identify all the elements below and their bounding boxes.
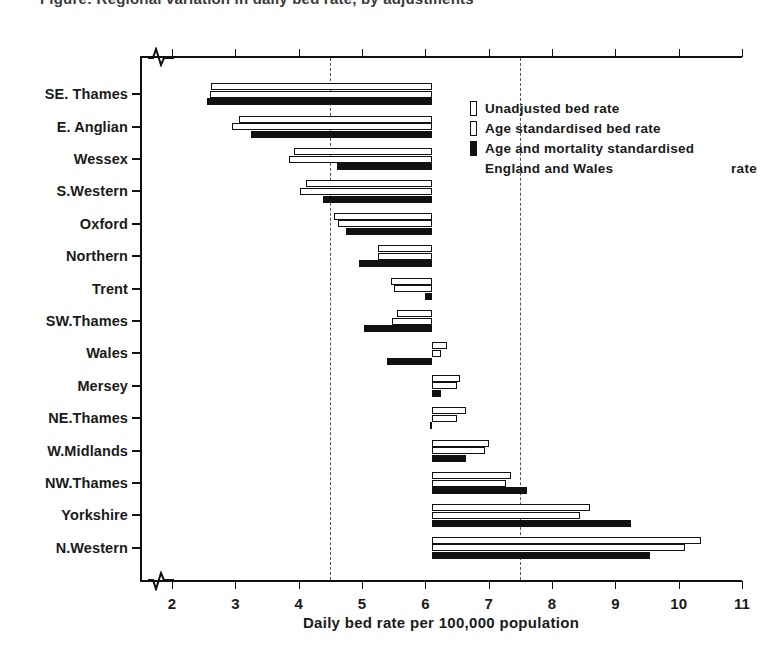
legend-item: Age standardised bed rate	[470, 120, 770, 137]
legend-swatch-icon	[470, 121, 477, 136]
bar	[432, 472, 511, 479]
bar	[432, 544, 685, 551]
x-tick-label: 7	[484, 595, 492, 612]
x-tick-bottom	[235, 581, 236, 589]
y-axis-label: Wessex	[74, 151, 128, 167]
x-tick-bottom	[742, 581, 743, 589]
y-tick	[132, 514, 141, 516]
chart-title: Figure: Regional variation in daily bed …	[40, 0, 740, 7]
bar	[432, 342, 448, 349]
bar	[337, 163, 432, 170]
y-tick	[132, 126, 141, 128]
x-tick-top	[425, 49, 426, 57]
y-tick	[132, 223, 141, 225]
bar	[432, 504, 590, 511]
axis-bottom-line	[140, 580, 742, 582]
x-tick-label: 8	[548, 595, 556, 612]
y-tick	[132, 450, 141, 452]
x-tick-bottom	[362, 581, 363, 589]
y-tick	[132, 190, 141, 192]
legend-label: Age standardised bed rate	[485, 120, 661, 137]
y-tick	[132, 158, 141, 160]
y-axis-label: W.Midlands	[47, 443, 128, 459]
y-tick	[132, 547, 141, 549]
bar	[211, 83, 431, 90]
x-tick-top	[552, 49, 553, 57]
bar	[391, 278, 432, 285]
y-axis-label: Yorkshire	[61, 507, 128, 523]
bar	[323, 196, 432, 203]
chart-legend: Unadjusted bed rateAge standardised bed …	[470, 100, 770, 177]
y-tick	[132, 288, 141, 290]
bar	[251, 131, 432, 138]
bar	[397, 310, 432, 317]
y-tick	[132, 482, 141, 484]
y-axis-label: N.Western	[56, 540, 128, 556]
bar	[239, 116, 432, 123]
x-tick-bottom	[425, 581, 426, 589]
x-tick-bottom	[615, 581, 616, 589]
y-tick	[132, 255, 141, 257]
y-axis-label: SE. Thames	[45, 86, 128, 102]
x-tick-label: 3	[231, 595, 239, 612]
bar	[394, 285, 432, 292]
y-axis-label: NW.Thames	[45, 475, 128, 491]
bar	[432, 512, 581, 519]
y-tick	[132, 417, 141, 419]
bar	[306, 180, 431, 187]
bar	[338, 220, 432, 227]
x-tick-top	[235, 49, 236, 57]
bar	[232, 123, 432, 130]
bar	[294, 148, 432, 155]
bed-rate-bar-chart: Figure: Regional variation in daily bed …	[0, 0, 776, 652]
x-tick-label: 2	[168, 595, 176, 612]
bar	[378, 245, 432, 252]
x-tick-top	[362, 49, 363, 57]
bar	[364, 325, 432, 332]
x-tick-label: 6	[421, 595, 429, 612]
bar	[432, 520, 632, 527]
bar	[432, 487, 527, 494]
bar	[430, 422, 432, 429]
legend-swatch-icon	[470, 141, 477, 156]
bar	[425, 293, 431, 300]
bar	[432, 415, 457, 422]
bar	[346, 228, 432, 235]
bar	[432, 407, 467, 414]
y-axis-label: E. Anglian	[57, 119, 128, 135]
bar	[432, 350, 442, 357]
axis-top-line	[140, 56, 742, 58]
y-axis-label: Northern	[66, 248, 128, 264]
bar	[207, 98, 432, 105]
x-tick-top	[742, 49, 743, 57]
x-tick-label: 10	[670, 595, 687, 612]
bar	[432, 440, 489, 447]
x-tick-label: 11	[734, 595, 750, 612]
axis-left-line	[140, 56, 142, 582]
x-tick-label: 9	[611, 595, 619, 612]
x-tick-bottom	[552, 581, 553, 589]
y-axis-label: Mersey	[77, 378, 128, 394]
bar	[392, 318, 431, 325]
legend-label: Unadjusted bed rate	[485, 100, 620, 117]
bar	[432, 480, 507, 487]
bar	[378, 253, 432, 260]
y-tick	[132, 93, 141, 95]
x-tick-label: 5	[358, 595, 366, 612]
bar	[432, 447, 486, 454]
x-tick-top	[489, 49, 490, 57]
y-tick	[132, 385, 141, 387]
bar	[359, 260, 432, 267]
legend-swatch-icon	[470, 101, 477, 116]
bar	[334, 213, 432, 220]
bar	[300, 188, 432, 195]
bar	[432, 382, 457, 389]
y-tick	[132, 352, 141, 354]
axis-break-top-icon	[148, 47, 174, 67]
x-tick-bottom	[489, 581, 490, 589]
bar	[432, 537, 701, 544]
y-axis-label: Oxford	[80, 216, 128, 232]
x-tick-top	[679, 49, 680, 57]
y-axis-label: NE.Thames	[48, 410, 128, 426]
bar	[289, 156, 432, 163]
